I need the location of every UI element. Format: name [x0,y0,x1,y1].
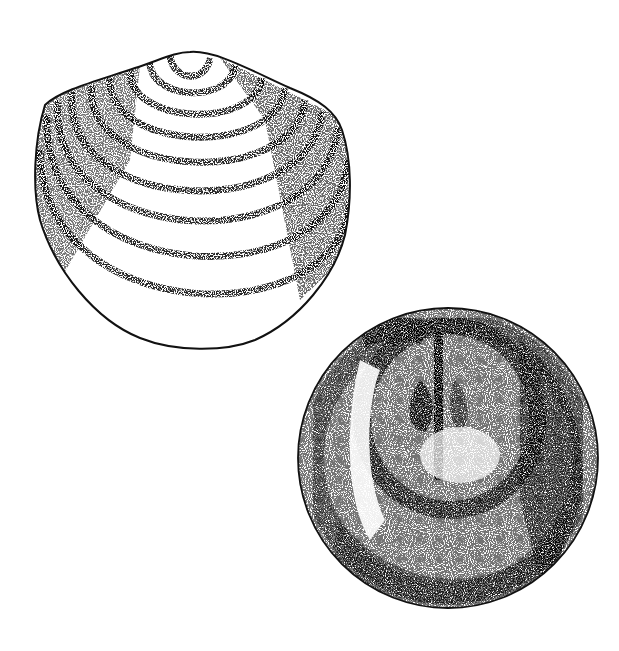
illustration-plate [0,0,619,651]
shell-exterior-view [30,52,352,349]
shell-interior-view [298,308,598,608]
